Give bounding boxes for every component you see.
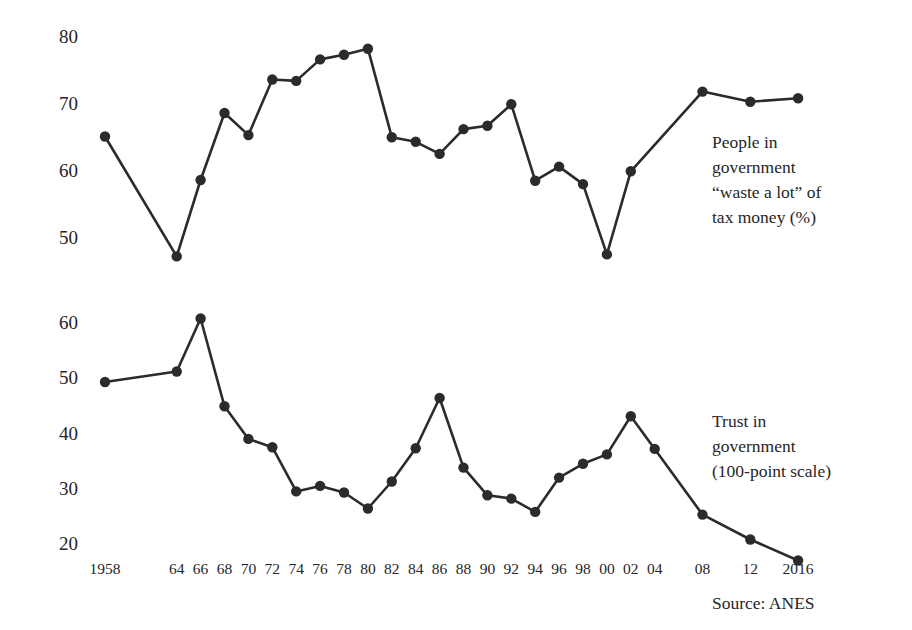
data-point-waste-2002 bbox=[626, 166, 636, 176]
data-point-trust-1970 bbox=[243, 434, 253, 444]
data-point-trust-2008 bbox=[697, 509, 707, 519]
data-point-waste-1982 bbox=[387, 132, 397, 142]
data-point-trust-1966 bbox=[195, 313, 205, 323]
data-point-trust-2002 bbox=[626, 411, 636, 421]
annotation-line: tax money (%) bbox=[712, 205, 821, 230]
data-point-trust-1974 bbox=[291, 486, 301, 496]
chart-figure: 506070802030405060 195864666870727476788… bbox=[0, 0, 912, 630]
data-point-waste-2016 bbox=[793, 93, 803, 103]
data-point-waste-1994 bbox=[530, 176, 540, 186]
annotation-line: government bbox=[712, 155, 821, 180]
data-point-waste-1968 bbox=[219, 108, 229, 118]
annotation-line: People in bbox=[712, 130, 821, 155]
data-point-waste-1964 bbox=[172, 251, 182, 261]
data-point-trust-1972 bbox=[267, 442, 277, 452]
data-point-trust-2004 bbox=[650, 444, 660, 454]
data-point-trust-1990 bbox=[482, 490, 492, 500]
data-point-waste-1996 bbox=[554, 161, 564, 171]
series-line-trust bbox=[105, 319, 798, 561]
data-point-trust-2016 bbox=[793, 555, 803, 565]
annotation-line: “waste a lot” of bbox=[712, 180, 821, 205]
data-point-waste-1980 bbox=[363, 44, 373, 54]
data-point-trust-2012 bbox=[745, 534, 755, 544]
source-note: Source: ANES bbox=[712, 592, 815, 614]
annotation-line: government bbox=[712, 434, 831, 459]
data-point-trust-1996 bbox=[554, 472, 564, 482]
data-point-waste-2008 bbox=[697, 86, 707, 96]
series-plot-layer bbox=[0, 0, 912, 630]
data-point-waste-2000 bbox=[602, 249, 612, 259]
annotation-line: Trust in bbox=[712, 409, 831, 434]
data-point-trust-1980 bbox=[363, 503, 373, 513]
series-annotation-waste: People ingovernment“waste a lot” oftax m… bbox=[712, 130, 821, 230]
data-point-trust-1982 bbox=[387, 476, 397, 486]
data-point-trust-2000 bbox=[602, 449, 612, 459]
data-point-trust-1988 bbox=[458, 462, 468, 472]
data-point-trust-1978 bbox=[339, 487, 349, 497]
data-point-waste-1984 bbox=[411, 137, 421, 147]
data-point-trust-1958 bbox=[100, 377, 110, 387]
data-point-waste-1958 bbox=[100, 131, 110, 141]
data-point-waste-1988 bbox=[458, 124, 468, 134]
data-point-waste-1976 bbox=[315, 54, 325, 64]
data-point-waste-1998 bbox=[578, 179, 588, 189]
data-point-trust-1968 bbox=[219, 401, 229, 411]
data-point-waste-1966 bbox=[195, 175, 205, 185]
data-point-trust-1986 bbox=[434, 393, 444, 403]
data-point-waste-1970 bbox=[243, 130, 253, 140]
data-point-waste-1972 bbox=[267, 74, 277, 84]
annotation-line: (100-point scale) bbox=[712, 459, 831, 484]
data-point-trust-1992 bbox=[506, 493, 516, 503]
data-point-trust-1998 bbox=[578, 459, 588, 469]
data-point-waste-1986 bbox=[434, 149, 444, 159]
data-point-trust-1994 bbox=[530, 507, 540, 517]
data-point-waste-1990 bbox=[482, 121, 492, 131]
data-point-trust-1984 bbox=[411, 443, 421, 453]
data-point-waste-1974 bbox=[291, 76, 301, 86]
series-line-waste bbox=[105, 49, 798, 257]
data-point-trust-1976 bbox=[315, 481, 325, 491]
data-point-waste-2012 bbox=[745, 97, 755, 107]
data-point-waste-1992 bbox=[506, 99, 516, 109]
series-annotation-trust: Trust ingovernment(100-point scale) bbox=[712, 409, 831, 484]
data-point-trust-1964 bbox=[172, 366, 182, 376]
data-point-waste-1978 bbox=[339, 50, 349, 60]
